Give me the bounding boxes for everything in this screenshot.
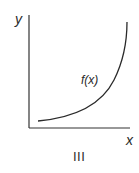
curve-label: f(x) xyxy=(81,74,98,86)
function-curve xyxy=(38,22,127,121)
panel-label: III xyxy=(73,150,85,163)
x-axis-label: x xyxy=(126,133,133,147)
y-axis-label: y xyxy=(15,12,22,26)
